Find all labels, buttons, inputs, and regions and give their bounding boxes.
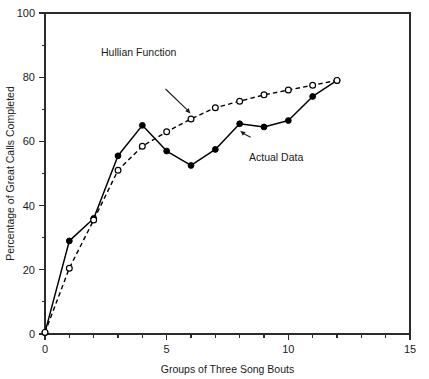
x-tick-label: 10 [282, 343, 294, 355]
data-point [188, 116, 194, 122]
y-axis-ticks: 020406080100 [17, 7, 45, 340]
chart-figure: 020406080100 051015 Hullian FunctionActu… [0, 0, 429, 379]
y-tick-label: 80 [23, 71, 35, 83]
data-point [115, 167, 121, 173]
data-point [139, 122, 145, 128]
data-point [310, 82, 316, 88]
data-point [66, 265, 72, 271]
x-axis-title: Groups of Three Song Bouts [161, 363, 294, 375]
y-tick-label: 40 [23, 200, 35, 212]
annotation-leader-line [166, 89, 187, 110]
data-point [42, 329, 48, 335]
data-point [115, 153, 121, 159]
data-point [334, 78, 340, 84]
data-point [310, 94, 316, 100]
annotation-leader-line [244, 134, 250, 137]
data-point [285, 118, 291, 124]
data-point [164, 148, 170, 154]
y-axis-title: Percentage of Great Calls Completed [4, 86, 16, 261]
data-point [139, 143, 145, 149]
data-point [261, 92, 267, 98]
data-point [212, 105, 218, 111]
x-tick-label: 15 [404, 343, 416, 355]
series-markers-hullian-function [42, 78, 340, 336]
data-point [261, 124, 267, 130]
data-point [237, 98, 243, 104]
x-axis-ticks: 051015 [42, 334, 416, 355]
data-point [91, 217, 97, 223]
data-point [212, 147, 218, 153]
data-point [237, 121, 243, 127]
y-tick-label: 100 [17, 7, 35, 19]
y-tick-label: 20 [23, 264, 35, 276]
annotation-label-hullian-function: Hullian Function [101, 46, 176, 58]
data-point [66, 238, 72, 244]
y-tick-label: 60 [23, 135, 35, 147]
annotation-layer: Hullian FunctionActual Data [101, 46, 303, 162]
data-series-layer [42, 78, 340, 336]
data-point [188, 163, 194, 169]
plot-frame [45, 13, 410, 334]
annotation-arrowhead [240, 131, 245, 136]
annotation-label-actual-data: Actual Data [249, 151, 303, 163]
x-tick-label: 5 [164, 343, 170, 355]
data-point [285, 87, 291, 93]
y-tick-label: 0 [29, 328, 35, 340]
data-point [164, 129, 170, 135]
chart-svg: 020406080100 051015 Hullian FunctionActu… [0, 0, 429, 379]
x-tick-label: 0 [42, 343, 48, 355]
